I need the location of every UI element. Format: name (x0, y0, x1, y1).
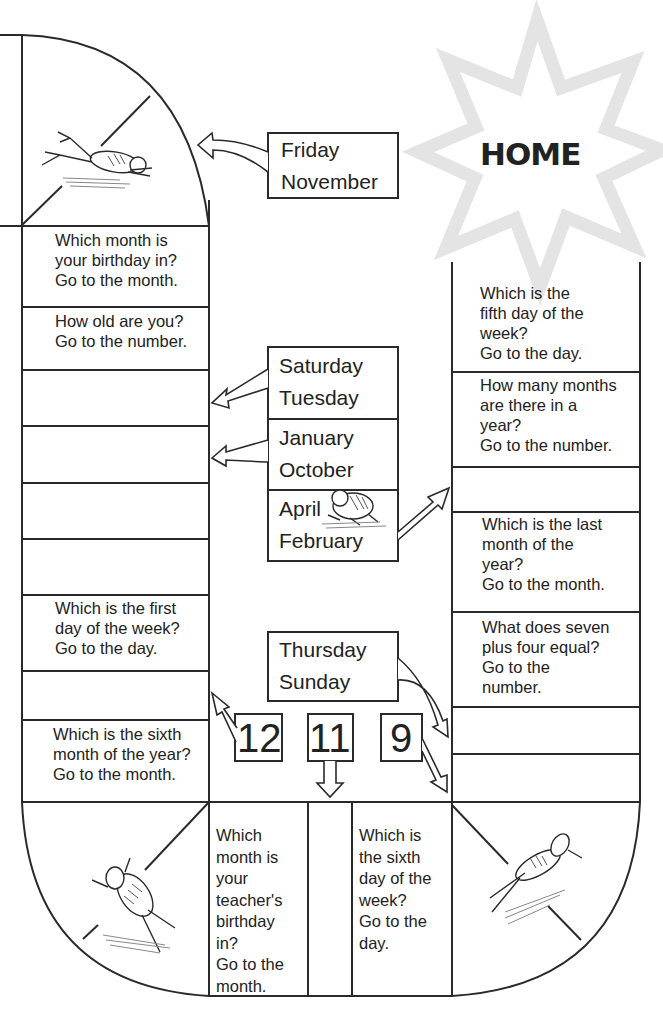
box-april-february: April February (279, 493, 363, 557)
box-january-october: January October (279, 422, 354, 486)
box-friday-november: Friday November (281, 134, 378, 198)
bottom-square-1[interactable]: Which month is your teacher's birthday i… (216, 825, 284, 997)
left-square-7[interactable]: Which is the first day of the week? Go t… (55, 598, 180, 658)
left-square-1[interactable]: Which month is your birthday in? Go to t… (55, 230, 178, 290)
home-label: HOME (480, 136, 580, 172)
frog-top-left-icon (42, 132, 152, 188)
box-thursday-sunday: Thursday Sunday (279, 634, 367, 698)
arrow-saturday-left (212, 369, 268, 408)
right-square-2[interactable]: How many months are there in a year? Go … (480, 375, 617, 455)
left-square-2[interactable]: How old are you? Go to the number. (55, 311, 187, 351)
left-square-9[interactable]: Which is the sixth month of the year? Go… (53, 724, 191, 784)
box-saturday-tuesday: Saturday Tuesday (279, 350, 363, 414)
number-box-12: 12 (237, 718, 282, 758)
bottom-square-3[interactable]: Which is the sixth day of the week? Go t… (359, 825, 431, 954)
frog-bottom-right-icon (490, 831, 582, 924)
right-square-4[interactable]: Which is the last month of the year? Go … (482, 514, 605, 594)
number-box-11: 11 (309, 718, 351, 758)
number-box-9: 9 (390, 718, 412, 758)
right-square-5[interactable]: What does seven plus four equal? Go to t… (482, 617, 610, 697)
right-square-1[interactable]: Which is the fifth day of the week? Go t… (480, 283, 584, 363)
arrow-friday-left (198, 133, 268, 172)
frog-bottom-left-icon (92, 858, 175, 953)
